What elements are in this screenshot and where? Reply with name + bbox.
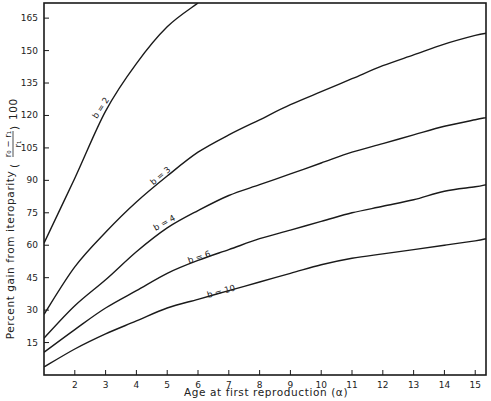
curve-b3 [44, 33, 486, 314]
curve-b6 [44, 185, 486, 353]
curves: b = 2b = 3b = 4b = 6b = 10 [44, 3, 486, 367]
y-tick-label: 165 [21, 13, 38, 23]
y-tick-label: 105 [21, 143, 38, 153]
x-tick-label: 4 [134, 380, 140, 390]
curve-b2 [44, 3, 198, 243]
x-tick-label: 13 [408, 380, 419, 390]
y-axis-formula-denominator: r₁ [13, 141, 23, 148]
y-axis-formula-numerator: r₀ − r₁ [3, 131, 13, 157]
x-tick-label: 5 [164, 380, 170, 390]
y-tick-label: 60 [27, 240, 39, 250]
x-tick-label: 2 [72, 380, 78, 390]
x-tick-label: 15 [469, 380, 480, 390]
chart: 23456789101112131415 1530456075901051201… [0, 0, 491, 401]
y-axis-formula-multiplier: 100 [7, 98, 19, 120]
y-axis-title: Percent gain from iteroparity ( r₀ − r₁ … [3, 98, 23, 339]
curve-b10 [44, 239, 486, 367]
x-tick-label: 14 [439, 380, 451, 390]
y-axis-formula-close-paren: ) [8, 125, 20, 130]
y-tick-label: 120 [21, 110, 38, 120]
y-tick-label: 45 [27, 273, 38, 283]
y-tick-label: 75 [27, 208, 38, 218]
curve-label: b = 10 [206, 283, 236, 300]
curve-label: b = 6 [186, 248, 211, 265]
y-tick-label: 90 [27, 175, 39, 185]
x-tick-label: 3 [103, 380, 109, 390]
x-tick-label: 12 [377, 380, 388, 390]
y-tick-label: 135 [21, 78, 38, 88]
y-tick-label: 30 [27, 305, 39, 315]
y-axis-formula-open-paren: ( [8, 163, 20, 168]
curve-label: b = 3 [148, 164, 172, 187]
y-tick-label: 15 [27, 338, 38, 348]
plot-frame [44, 3, 486, 375]
plot-area [44, 3, 486, 375]
x-axis-title: Age at first reproduction (α) [184, 386, 348, 398]
y-axis-title-text: Percent gain from iteroparity [4, 171, 16, 340]
y-tick-label: 150 [21, 46, 38, 56]
